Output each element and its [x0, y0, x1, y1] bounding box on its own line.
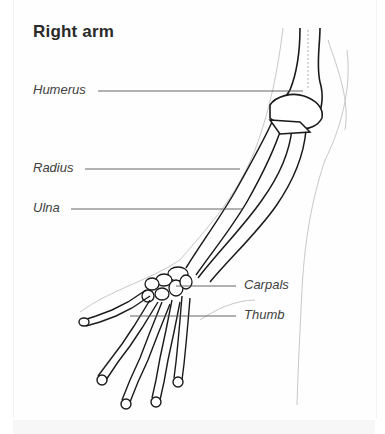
label-humerus: Humerus [33, 82, 86, 97]
forearm-bones [186, 122, 306, 282]
label-ulna: Ulna [33, 200, 60, 215]
label-carpals: Carpals [244, 277, 289, 292]
hand-bones [79, 290, 190, 409]
humerus-bone [270, 28, 322, 129]
arm-skeleton-illustration [0, 0, 385, 434]
label-thumb: Thumb [244, 307, 284, 322]
label-radius: Radius [33, 160, 73, 175]
